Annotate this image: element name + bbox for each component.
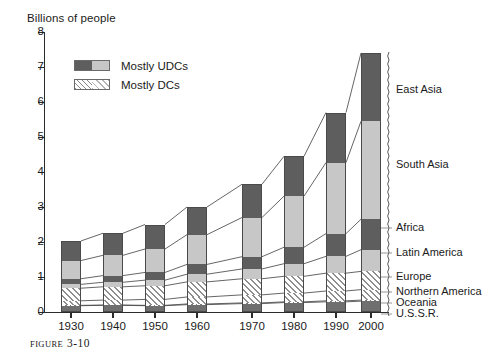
region-label-europe: Europe [396, 271, 431, 282]
legend-swatch-half [92, 80, 109, 89]
legend-swatch-half [75, 80, 92, 89]
region-label-south-asia: South Asia [396, 159, 449, 170]
population-stacked-bar-chart: Billions of people 012345678 19301940195… [0, 0, 493, 362]
legend-label: Mostly UDCs [121, 59, 188, 73]
legend-swatch-udc [74, 60, 110, 71]
region-label-africa: Africa [396, 222, 424, 233]
region-label-east-asia: East Asia [396, 84, 442, 95]
legend-swatch-half [75, 61, 92, 70]
region-label-u-s-s-r: U.S.S.R. [396, 308, 439, 319]
figure-caption: Figure3-10 [30, 337, 90, 349]
figure-caption-prefix: Figure [30, 339, 63, 349]
legend-swatch-half [92, 61, 109, 70]
legend-swatch-dc [74, 79, 110, 90]
figure-caption-number: 3-10 [67, 337, 90, 349]
region-label-latin-america: Latin America [396, 247, 463, 258]
wavy-bracket [388, 52, 389, 316]
legend-label: Mostly DCs [121, 78, 180, 92]
